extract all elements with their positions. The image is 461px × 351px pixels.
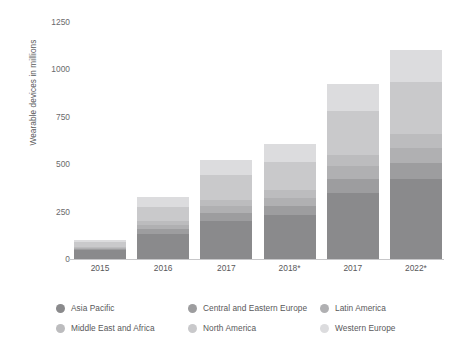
stacked-bar[interactable] xyxy=(200,160,252,260)
bar-column[interactable] xyxy=(264,22,316,259)
bar-segment[interactable] xyxy=(390,163,442,180)
bar-segment[interactable] xyxy=(327,111,379,155)
bar-segment[interactable] xyxy=(264,190,316,197)
bar-segment[interactable] xyxy=(200,175,252,200)
bar-segment[interactable] xyxy=(327,166,379,179)
bar-segment[interactable] xyxy=(327,84,379,112)
bar-segment[interactable] xyxy=(390,179,442,259)
stacked-bar[interactable] xyxy=(327,84,379,259)
y-tick-label: 0 xyxy=(28,254,70,264)
legend-item[interactable]: Western Europe xyxy=(320,323,436,333)
bar-segment[interactable] xyxy=(390,82,442,134)
bar-segment[interactable] xyxy=(137,197,189,207)
y-axis-ticks: 025050075010001250 xyxy=(28,0,70,290)
y-tick-label: 1250 xyxy=(28,17,70,27)
legend-item[interactable]: North America xyxy=(188,323,320,333)
bar-segment[interactable] xyxy=(200,213,252,221)
x-tick-label: 2015 xyxy=(74,263,126,273)
bar-segment[interactable] xyxy=(327,193,379,259)
x-tick-label: 2016 xyxy=(137,263,189,273)
legend-label: Central and Eastern Europe xyxy=(203,303,307,313)
stacked-bar[interactable] xyxy=(74,240,126,259)
legend-swatch-circle-icon xyxy=(188,304,197,313)
stacked-bar-chart: Wearable devices in millions 02505007501… xyxy=(0,0,461,351)
legend-item[interactable]: Latin America xyxy=(320,303,436,313)
y-tick-label: 500 xyxy=(28,159,70,169)
legend-label: North America xyxy=(203,323,256,333)
x-tick-label: 2018* xyxy=(264,263,316,273)
bar-segment[interactable] xyxy=(264,144,316,162)
legend-label: Middle East and Africa xyxy=(71,323,155,333)
legend-swatch-circle-icon xyxy=(56,324,65,333)
bar-segment[interactable] xyxy=(264,215,316,259)
legend-swatch-circle-icon xyxy=(320,304,329,313)
bar-segment[interactable] xyxy=(264,206,316,215)
x-axis-ticks: 2015201620172018*20172022* xyxy=(74,263,442,273)
bar-segment[interactable] xyxy=(200,221,252,259)
bar-column[interactable] xyxy=(74,22,126,259)
legend-swatch-circle-icon xyxy=(320,324,329,333)
bar-column[interactable] xyxy=(137,22,189,259)
legend-label: Latin America xyxy=(335,303,386,313)
legend-item[interactable]: Middle East and Africa xyxy=(56,323,188,333)
x-tick-label: 2022* xyxy=(390,263,442,273)
y-tick-label: 250 xyxy=(28,207,70,217)
bar-segment[interactable] xyxy=(390,50,442,83)
stacked-bar[interactable] xyxy=(137,197,189,259)
bar-column[interactable] xyxy=(327,22,379,259)
bar-segment[interactable] xyxy=(390,134,442,147)
stacked-bar[interactable] xyxy=(264,144,316,259)
bar-segment[interactable] xyxy=(74,250,126,259)
y-tick-label: 750 xyxy=(28,112,70,122)
legend-label: Asia Pacific xyxy=(71,303,114,313)
chart-legend: Asia PacificCentral and Eastern EuropeLa… xyxy=(56,298,446,338)
bar-column[interactable] xyxy=(200,22,252,259)
bar-segment[interactable] xyxy=(200,160,252,176)
bar-segment[interactable] xyxy=(264,198,316,206)
bar-segment[interactable] xyxy=(137,207,189,221)
x-tick-label: 2017 xyxy=(200,263,252,273)
legend-swatch-circle-icon xyxy=(56,304,65,313)
bar-segment[interactable] xyxy=(390,148,442,163)
bar-segment[interactable] xyxy=(200,206,252,213)
bar-segment[interactable] xyxy=(264,162,316,190)
bar-segment[interactable] xyxy=(137,234,189,259)
legend-item[interactable]: Asia Pacific xyxy=(56,303,188,313)
y-tick-label: 1000 xyxy=(28,64,70,74)
x-axis-line xyxy=(68,259,444,260)
bar-segment[interactable] xyxy=(327,179,379,193)
bar-column[interactable] xyxy=(390,22,442,259)
bar-group xyxy=(74,22,442,259)
legend-label: Western Europe xyxy=(335,323,396,333)
legend-swatch-circle-icon xyxy=(188,324,197,333)
legend-item[interactable]: Central and Eastern Europe xyxy=(188,303,320,313)
bar-segment[interactable] xyxy=(327,155,379,166)
plot-area xyxy=(74,22,442,259)
stacked-bar[interactable] xyxy=(390,50,442,259)
x-tick-label: 2017 xyxy=(327,263,379,273)
